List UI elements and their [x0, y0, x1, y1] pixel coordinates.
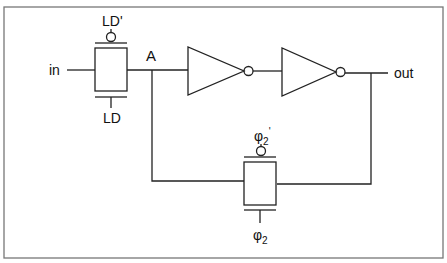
gate1-top-label: LD'	[102, 14, 123, 28]
gate2-bottom-label: φ2	[253, 228, 268, 246]
node-a-label: A	[146, 48, 156, 63]
input-label: in	[49, 63, 60, 77]
output-label: out	[394, 66, 413, 80]
circuit-diagram	[0, 0, 447, 263]
diagram-frame	[4, 7, 443, 258]
inverter-1	[188, 47, 253, 95]
inverter-2	[282, 48, 345, 96]
gate2-top-label: φ2'	[254, 127, 271, 147]
feedback-wire	[277, 73, 371, 184]
transmission-gate-2	[244, 144, 276, 223]
feedback-wire-a	[152, 70, 244, 181]
gate1-bottom-label: LD	[103, 111, 121, 125]
transmission-gate-1	[95, 29, 127, 108]
